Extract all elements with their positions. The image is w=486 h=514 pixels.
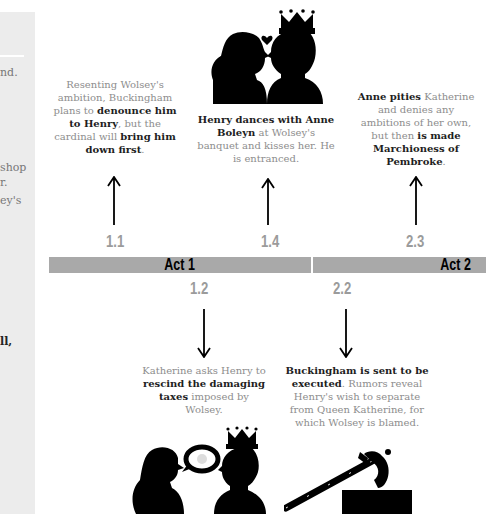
scene-number: 2.3 <box>406 233 424 251</box>
arrow-down-icon <box>339 308 353 358</box>
side-text-fragment: ll, <box>0 335 12 348</box>
arrow-up-icon <box>409 176 423 226</box>
arrow-up-icon <box>107 176 121 226</box>
scene-number: 1.1 <box>106 233 124 251</box>
side-panel <box>0 12 35 514</box>
scene-number: 1.4 <box>261 233 279 251</box>
side-text-fragment: r. <box>0 176 8 189</box>
henry-kissing-anne-icon <box>207 8 325 104</box>
scene-number: 1.2 <box>190 280 208 298</box>
event-text-2-2: Buckingham is sent to be executed. Rumor… <box>282 364 432 429</box>
side-text-fragment: shop <box>0 161 26 174</box>
scene-number: 2.2 <box>333 280 351 298</box>
event-text-1-2: Katherine asks Henry to rescind the dama… <box>140 364 268 416</box>
act-label: Act 1 <box>164 256 195 274</box>
side-text-fragment: nd. <box>0 66 18 79</box>
katherine-speaking-to-henry-icon <box>130 424 275 514</box>
side-text-fragment: ey's <box>0 194 21 207</box>
executioner-axe-icon <box>284 448 414 514</box>
event-text-2-3: Anne pities Katherine and denies any amb… <box>352 90 480 168</box>
act-label: Act 2 <box>440 256 471 274</box>
arrow-up-icon <box>261 178 275 226</box>
side-panel-divider <box>0 55 24 57</box>
arrow-down-icon <box>197 308 211 358</box>
event-text-1-1: Resenting Wolsey's ambition, Buckingham … <box>52 78 178 156</box>
event-text-1-4: Henry dances with Anne Boleyn at Wolsey'… <box>196 113 336 165</box>
